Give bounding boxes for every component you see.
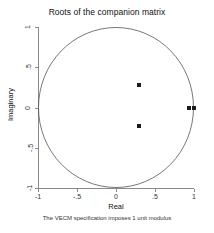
plot-area	[38, 27, 194, 188]
y-axis-tick	[35, 67, 38, 68]
x-axis-tick	[77, 189, 78, 192]
y-axis-tick	[35, 27, 38, 28]
chart-title: Roots of the companion matrix	[0, 7, 214, 17]
y-axis-tick-label: -.5	[27, 144, 34, 152]
x-axis-tick-label: .5	[152, 193, 158, 200]
y-axis-tick-label: -1	[26, 185, 33, 191]
y-axis-tick	[35, 188, 38, 189]
data-point-marker	[187, 106, 191, 110]
x-axis-title: Real	[38, 202, 194, 211]
y-axis-tick-label: 1	[24, 25, 31, 29]
y-axis-tick	[35, 108, 38, 109]
x-axis-tick	[194, 189, 195, 192]
y-axis-tick-label: 0	[24, 106, 31, 110]
x-axis-tick-label: -.5	[73, 193, 81, 200]
data-point-marker	[137, 83, 141, 87]
x-axis-tick	[155, 189, 156, 192]
chart-note: The VECM specification imposes 1 unit mo…	[0, 215, 214, 221]
x-axis-tick	[38, 189, 39, 192]
x-axis-tick-label: 0	[114, 193, 118, 200]
chart-container: Roots of the companion matrix -1-.50.51 …	[0, 0, 214, 233]
x-axis-tick-label: -1	[35, 193, 41, 200]
data-point-marker	[192, 106, 196, 110]
x-axis-tick-label: 1	[192, 193, 196, 200]
x-axis-tick	[116, 189, 117, 192]
y-axis-tick-label: .5	[25, 64, 32, 70]
y-axis-title: Imaginary	[6, 75, 15, 135]
y-axis-tick	[35, 148, 38, 149]
data-point-marker	[137, 124, 141, 128]
unit-circle-shape	[38, 27, 194, 188]
